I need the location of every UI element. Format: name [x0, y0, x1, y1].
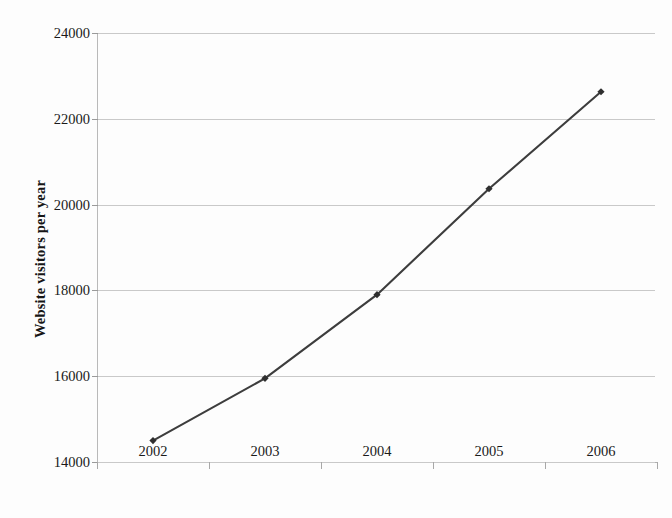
x-axis-tick-mark [433, 462, 434, 469]
x-axis-tick-label: 2006 [561, 443, 641, 460]
y-axis-tick-label: 24000 [38, 25, 90, 42]
x-axis-tick-mark [209, 462, 210, 469]
series-line [153, 92, 601, 441]
x-axis-tick-label: 2002 [113, 443, 193, 460]
y-axis-tick-label: 14000 [38, 454, 90, 471]
x-axis-tick-label: 2004 [337, 443, 417, 460]
gridline [97, 462, 655, 463]
series-marker-group [149, 88, 604, 444]
y-axis-tick-label: 16000 [38, 368, 90, 385]
data-series-layer [97, 33, 657, 462]
y-axis-tick-label: 22000 [38, 110, 90, 127]
x-axis-tick-label: 2005 [449, 443, 529, 460]
x-axis-tick-mark [321, 462, 322, 469]
y-axis-tick-label-group: 140001600018000200002200024000 [38, 0, 90, 518]
y-axis-tick-label: 18000 [38, 282, 90, 299]
line-chart-figure: Website visitors per year 14000160001800… [0, 0, 672, 518]
plot-area [97, 33, 657, 462]
y-axis-tick-label: 20000 [38, 196, 90, 213]
x-axis-tick-mark [545, 462, 546, 469]
x-axis-tick-mark [657, 462, 658, 469]
x-axis-tick-mark [97, 462, 98, 469]
x-axis-tick-label: 2003 [225, 443, 305, 460]
